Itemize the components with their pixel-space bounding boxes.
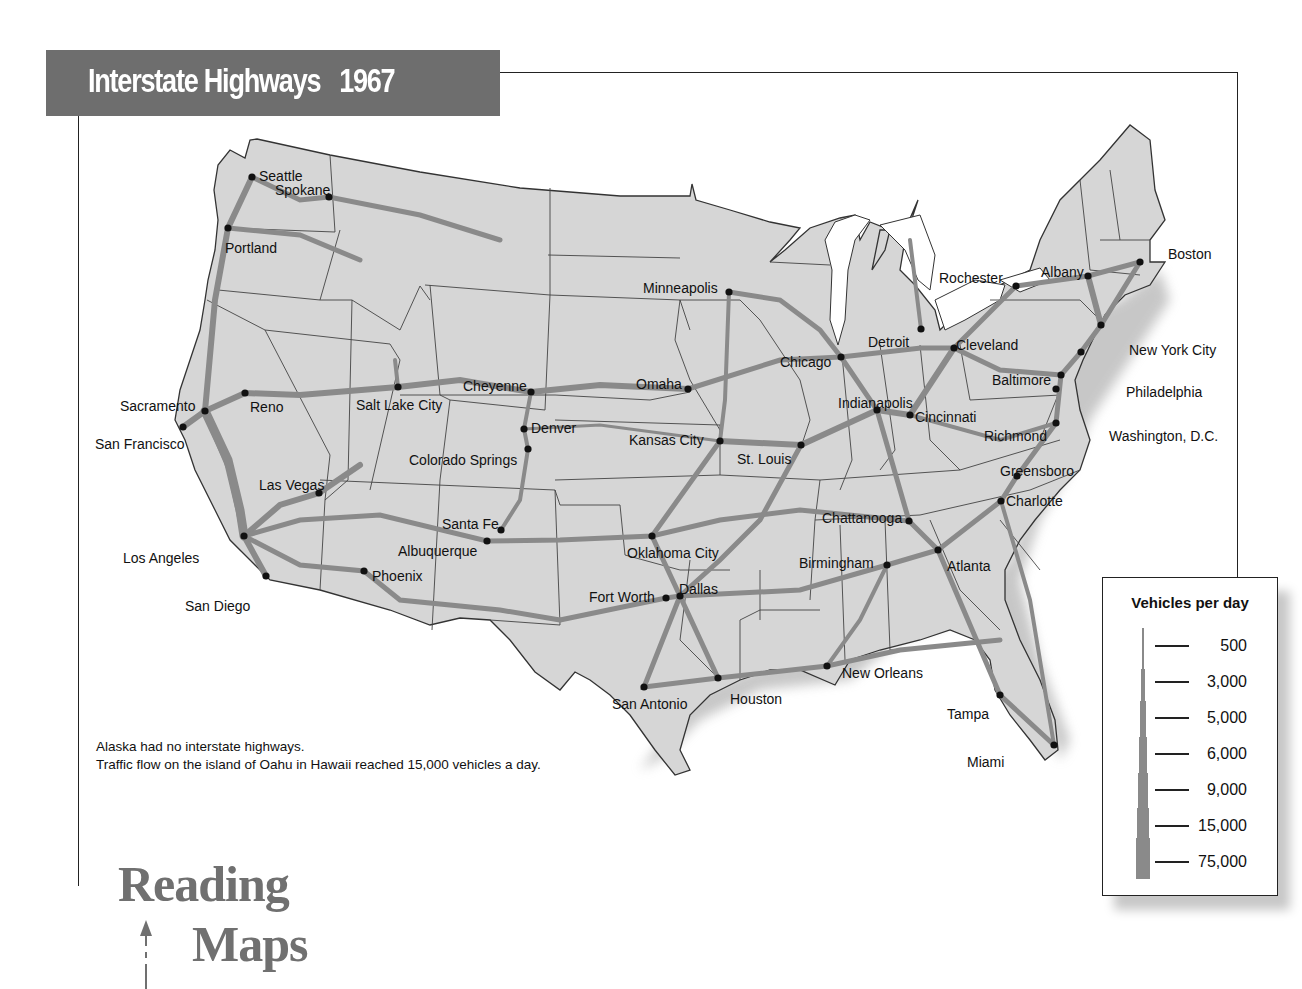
city-santa-fe: Santa Fe xyxy=(442,516,505,534)
city-dot-icon xyxy=(248,173,255,180)
legend-width-scale-icon xyxy=(1103,578,1277,895)
city-label: Fort Worth xyxy=(589,589,655,605)
city-charlotte: Charlotte xyxy=(997,493,1063,509)
legend-row-5000: 5,000 xyxy=(1155,708,1247,728)
city-dot-icon xyxy=(224,224,231,231)
legend-row-75000: 75,000 xyxy=(1155,852,1247,872)
branding-maps: Maps xyxy=(192,915,307,973)
city-dot-icon xyxy=(996,691,1003,698)
city-dot-icon xyxy=(662,594,669,601)
city-label: Boston xyxy=(1168,246,1212,262)
city-label: New Orleans xyxy=(842,665,923,681)
city-label: Denver xyxy=(531,420,576,436)
city-label: Detroit xyxy=(868,334,909,350)
city-greensboro: Greensboro xyxy=(1000,463,1074,480)
city-dot-icon xyxy=(394,383,401,390)
city-dot-icon xyxy=(648,532,655,539)
city-label: Santa Fe xyxy=(442,516,499,532)
city-label: St. Louis xyxy=(737,451,791,467)
city-dot-icon xyxy=(1052,385,1059,392)
city-label: Minneapolis xyxy=(643,280,718,296)
city-dot-icon xyxy=(262,572,269,579)
city-label: Spokane xyxy=(275,182,330,198)
city-dot-icon xyxy=(837,353,844,360)
city-label: Richmond xyxy=(984,428,1047,444)
city-dallas: Dallas xyxy=(676,581,718,600)
city-dot-icon xyxy=(640,683,647,690)
legend-row-500: 500 xyxy=(1155,636,1247,656)
city-dot-icon xyxy=(240,532,247,539)
city-label: Chattanooga xyxy=(822,510,902,526)
city-dot-icon xyxy=(527,388,534,395)
city-dot-icon xyxy=(520,425,527,432)
legend-box: Vehicles per day 500 3,000 5,000 6,000 9… xyxy=(1102,577,1278,896)
city-dot-icon xyxy=(241,389,248,396)
city-dot-icon xyxy=(1012,282,1019,289)
city-label: Portland xyxy=(225,240,277,256)
city-dot-icon xyxy=(483,537,490,544)
city-label: Greensboro xyxy=(1000,463,1074,479)
city-dot-icon xyxy=(179,423,186,430)
city-label: Las Vegas xyxy=(259,477,324,493)
city-label: Oklahoma City xyxy=(627,545,719,561)
note-hawaii: Traffic flow on the island of Oahu in Ha… xyxy=(96,756,541,774)
city-spokane: Spokane xyxy=(275,182,333,201)
city-label: New York City xyxy=(1129,342,1216,358)
legend-row-3000: 3,000 xyxy=(1155,672,1247,692)
city-dot-icon xyxy=(716,437,723,444)
city-label: Los Angeles xyxy=(123,550,199,566)
city-label: Birmingham xyxy=(799,555,874,571)
city-dot-icon xyxy=(905,517,912,524)
city-cincinnati: Cincinnati xyxy=(906,409,976,425)
city-dot-icon xyxy=(797,441,804,448)
city-dot-icon xyxy=(883,561,890,568)
city-label: Atlanta xyxy=(947,558,991,574)
city-dot-icon xyxy=(917,325,924,332)
city-label: Chicago xyxy=(780,354,832,370)
city-cleveland: Cleveland xyxy=(950,337,1018,353)
city-label: Miami xyxy=(967,754,1004,770)
legend-row-6000: 6,000 xyxy=(1155,744,1247,764)
city-label: Colorado Springs xyxy=(409,452,517,468)
note-alaska: Alaska had no interstate highways. xyxy=(96,738,541,756)
city-dot-icon xyxy=(714,674,721,681)
city-chattanooga: Chattanooga xyxy=(822,510,913,526)
city-indianapolis: Indianapolis xyxy=(838,395,913,414)
city-label: Albany xyxy=(1041,264,1084,280)
legend-row-15000: 15,000 xyxy=(1155,816,1247,836)
city-label: Omaha xyxy=(636,376,682,392)
city-label: Tampa xyxy=(947,706,989,722)
city-dot-icon xyxy=(1050,741,1057,748)
city-label: Phoenix xyxy=(372,568,423,584)
up-arrow-icon xyxy=(139,920,153,989)
city-label: Houston xyxy=(730,691,782,707)
city-dot-icon xyxy=(1097,321,1104,328)
city-dot-icon xyxy=(823,662,830,669)
city-dot-icon xyxy=(201,407,208,414)
branding-reading: Reading xyxy=(118,855,289,913)
legend-row-9000: 9,000 xyxy=(1155,780,1247,800)
city-label: Washington, D.C. xyxy=(1109,428,1218,444)
city-dot-icon xyxy=(1136,258,1143,265)
city-label: San Diego xyxy=(185,598,251,614)
city-label: San Antonio xyxy=(612,696,688,712)
city-label: Indianapolis xyxy=(838,395,913,411)
city-label: Sacramento xyxy=(120,398,196,414)
city-label: Cleveland xyxy=(956,337,1018,353)
city-dot-icon xyxy=(1052,419,1059,426)
city-label: Albuquerque xyxy=(398,543,478,559)
city-cheyenne: Cheyenne xyxy=(463,378,535,396)
city-label: Rochester xyxy=(939,270,1003,286)
city-label: Cheyenne xyxy=(463,378,527,394)
city-label: Charlotte xyxy=(1006,493,1063,509)
city-san-francisco: San Francisco xyxy=(95,423,187,452)
city-dot-icon xyxy=(1057,371,1064,378)
city-dot-icon xyxy=(934,546,941,553)
city-label: Dallas xyxy=(679,581,718,597)
city-label: Philadelphia xyxy=(1126,384,1202,400)
city-dot-icon xyxy=(725,288,732,295)
city-sacramento: Sacramento xyxy=(120,398,209,415)
city-dot-icon xyxy=(1077,348,1084,355)
city-dot-icon xyxy=(360,567,367,574)
city-tampa: Tampa xyxy=(947,691,1004,722)
